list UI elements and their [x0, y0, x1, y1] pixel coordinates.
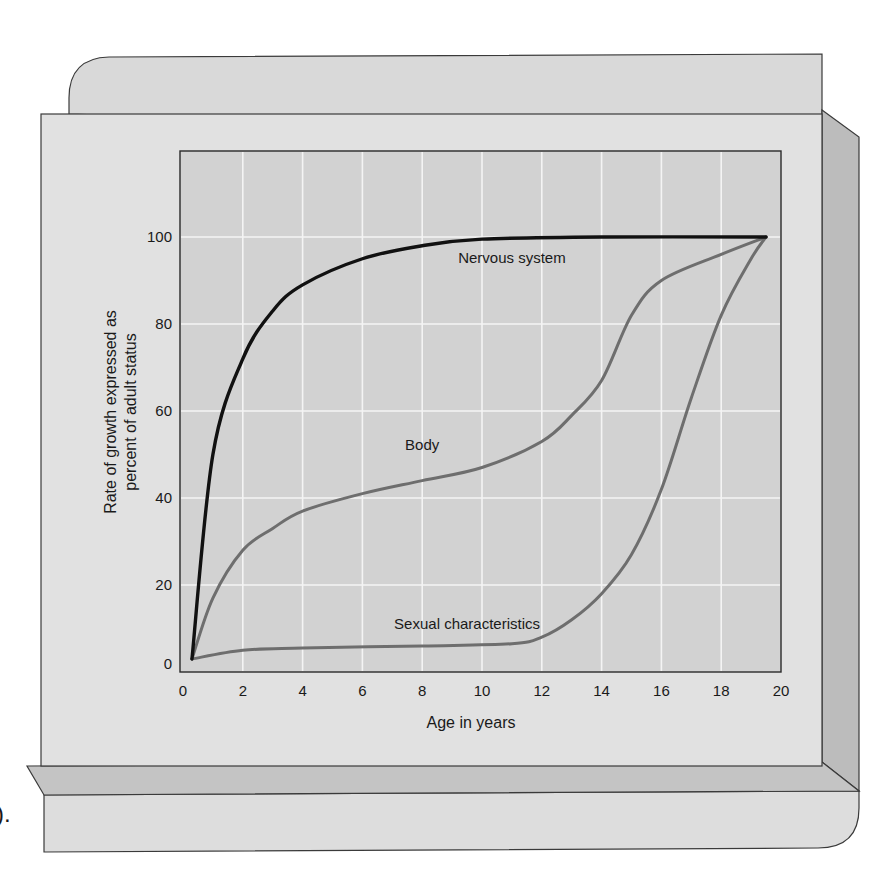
right-bevel — [822, 110, 859, 791]
bottom-panel — [44, 791, 859, 852]
plot-area: Nervous systemBodySexual characteristics… — [147, 151, 789, 699]
x-tick-label: 10 — [474, 682, 491, 699]
x-tick-label: 12 — [533, 682, 550, 699]
bottom-bevel — [27, 762, 859, 795]
x-tick-label: 18 — [713, 682, 730, 699]
y-tick-label: 20 — [155, 576, 172, 593]
x-tick-label: 8 — [418, 682, 426, 699]
y-tick-label: 40 — [155, 489, 172, 506]
label-body: Body — [405, 436, 440, 453]
y-tick-label: 60 — [155, 402, 172, 419]
y-axis-label-line2: percent of adult status — [122, 333, 139, 490]
y-tick-label: 80 — [155, 315, 172, 332]
x-tick-label: 16 — [653, 682, 670, 699]
caption-fragment: ). — [0, 800, 11, 827]
growth-chart-figure: ). Nervous systemBodySexual characterist… — [0, 0, 896, 894]
y-tick-label: 100 — [147, 228, 172, 245]
x-tick-label: 20 — [773, 682, 790, 699]
x-axis-label: Age in years — [427, 714, 516, 731]
label-nervous-system: Nervous system — [458, 249, 566, 266]
x-tick-label: 4 — [298, 682, 306, 699]
x-tick-label: 0 — [179, 682, 187, 699]
x-tick-label: 6 — [358, 682, 366, 699]
y-axis-label-line1: Rate of growth expressed as — [102, 310, 119, 514]
x-tick-label: 14 — [593, 682, 610, 699]
x-tick-label: 2 — [239, 682, 247, 699]
label-sexual-characteristics: Sexual characteristics — [394, 615, 540, 632]
y-tick-label: 0 — [164, 655, 172, 672]
